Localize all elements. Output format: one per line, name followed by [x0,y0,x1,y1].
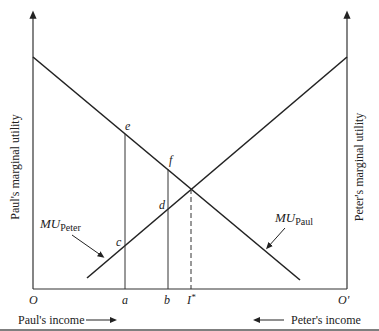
paul-income-caption: Paul's income [18,313,85,327]
tick-b-label: b [164,293,170,307]
mu-peter-curve [87,57,347,278]
mu-peter-pointer-arrow [72,235,102,256]
left-axis-label: Paul's marginal utility [8,114,22,219]
peter-income-caption: Peter's income [291,313,361,327]
mu-paul-label: MUPaul [274,210,313,227]
mu-paul-pointer-arrow [268,228,285,247]
point-f-label: f [169,153,174,167]
point-e-label: e [125,119,131,133]
point-c-label: c [116,235,122,249]
tick-i-star-label: I* [186,292,196,307]
origin-left-label: O [29,293,38,307]
utility-diagram: e f d c MUPeter MUPaul Paul's marginal u… [0,0,379,331]
point-d-label: d [159,198,166,212]
mu-paul-curve [33,57,300,280]
origin-right-label: O' [338,293,350,307]
mu-peter-label: MUPeter [39,216,81,233]
right-axis-label: Peter's marginal utility [352,113,366,222]
tick-a-label: a [122,293,128,307]
